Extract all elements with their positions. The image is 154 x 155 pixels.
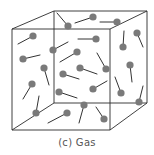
molecule <box>89 81 107 93</box>
molecule-ball <box>63 109 70 116</box>
molecule <box>60 48 81 62</box>
molecule <box>96 107 108 123</box>
molecule-ball <box>126 61 133 68</box>
molecule-ball <box>119 43 126 50</box>
molecule-ball <box>92 35 99 42</box>
molecule <box>126 61 133 82</box>
molecule-ball <box>76 64 83 71</box>
molecule-ball <box>59 70 66 77</box>
molecule <box>97 53 110 73</box>
molecule <box>23 80 36 99</box>
molecule <box>135 86 143 106</box>
molecule <box>19 55 40 63</box>
molecule <box>57 13 72 30</box>
molecule <box>100 18 121 25</box>
molecule-ball <box>64 22 71 29</box>
molecule-ball <box>80 101 87 108</box>
molecule-ball <box>32 109 39 116</box>
molecule <box>115 77 125 97</box>
molecule <box>119 31 126 51</box>
molecule-ball <box>117 89 124 96</box>
figure-caption: (c) Gas <box>0 137 154 148</box>
molecule-ball <box>49 46 56 53</box>
gas-molecules <box>18 13 143 123</box>
molecule-ball <box>102 65 109 72</box>
molecule-ball <box>89 85 96 92</box>
molecule <box>78 35 100 42</box>
molecule <box>48 109 71 123</box>
molecule-ball <box>28 80 35 87</box>
cube-edge-depth-bl <box>12 103 54 130</box>
gas-cube-diagram <box>0 0 154 155</box>
molecule-ball <box>55 88 62 95</box>
cube-edge-depth-br <box>110 103 147 130</box>
molecule-ball <box>133 29 140 36</box>
molecule <box>59 70 79 79</box>
molecule-ball <box>40 64 47 71</box>
cube-edge-depth-tl <box>12 11 54 29</box>
molecule <box>79 101 88 123</box>
molecule <box>55 88 77 98</box>
molecule <box>18 32 37 44</box>
molecule-ball <box>29 32 36 39</box>
molecule <box>49 42 68 54</box>
molecule <box>40 64 49 85</box>
molecule <box>32 96 39 117</box>
molecule <box>75 13 97 23</box>
molecule-ball <box>113 18 120 25</box>
molecule <box>76 64 97 74</box>
molecule-ball <box>89 13 96 20</box>
molecule-ball <box>73 48 80 55</box>
molecule-ball <box>19 55 26 62</box>
molecule <box>133 29 143 47</box>
molecule-ball <box>135 98 142 105</box>
molecule-ball <box>100 115 107 122</box>
